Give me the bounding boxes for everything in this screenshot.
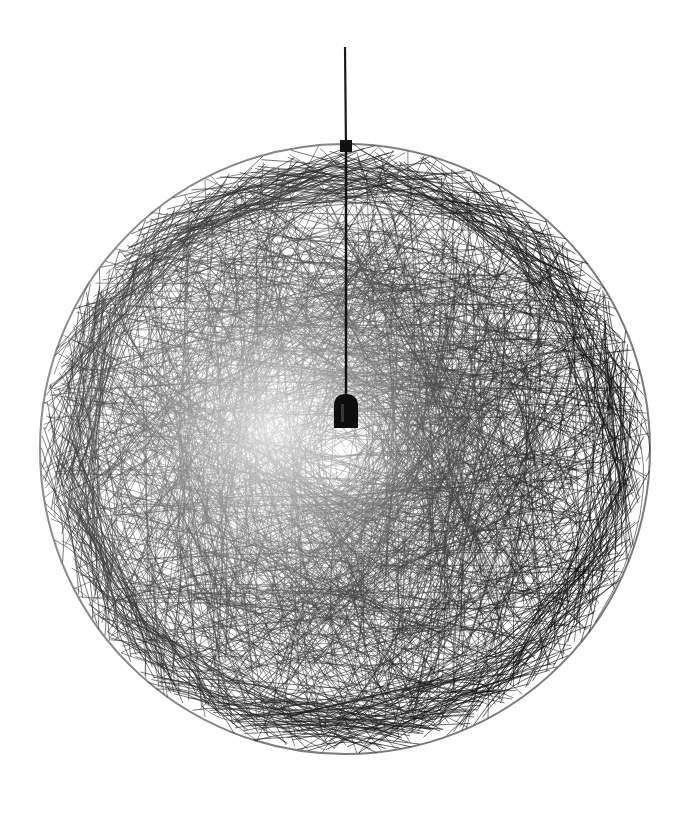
- top-canopy: [340, 140, 352, 152]
- lamp-photo: [0, 0, 688, 814]
- socket-highlight: [341, 404, 344, 422]
- pendant-lamp-illustration: [0, 0, 688, 814]
- hanging-cord: [345, 47, 346, 148]
- lamp-socket: [334, 394, 358, 428]
